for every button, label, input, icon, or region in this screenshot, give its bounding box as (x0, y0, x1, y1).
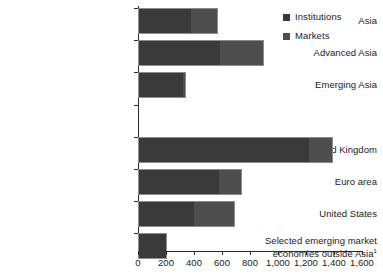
bar-segment-markets (220, 41, 263, 65)
bar-segment-institutions (139, 41, 220, 65)
bar-segment-markets (219, 170, 240, 194)
bar (138, 40, 264, 66)
legend-label-markets: Markets (295, 31, 329, 41)
y-axis-tick (134, 105, 138, 106)
x-axis-tick (250, 251, 251, 255)
category-label: Selected emerging market economies outsi… (251, 235, 383, 259)
x-axis-tick (138, 251, 139, 255)
legend-item-markets: Markets (283, 28, 342, 44)
bar (138, 201, 235, 227)
category-label: Euro area (251, 176, 383, 187)
bar-segment-markets (309, 138, 331, 162)
bar (138, 169, 242, 195)
bar-segment-institutions (139, 202, 194, 226)
bar-segment-markets (183, 73, 185, 97)
x-axis-tick-label: 1,000 (266, 257, 290, 268)
x-axis-tick (166, 251, 167, 255)
x-axis-tick (362, 251, 363, 255)
bar (138, 8, 218, 34)
bar-segment-institutions (139, 138, 309, 162)
bar-segment-markets (191, 9, 217, 33)
x-axis-tick-label: 0 (135, 257, 140, 268)
x-axis-tick-label: 400 (186, 257, 202, 268)
category-label: Advanced Asia (251, 47, 383, 58)
x-axis-tick-label: 600 (214, 257, 230, 268)
x-axis-tick (194, 251, 195, 255)
bar-segment-institutions (139, 170, 219, 194)
bar (138, 137, 333, 163)
bar-segment-institutions (139, 73, 183, 97)
bar-chart: Institutions Markets AsiaAdvanced AsiaEm… (0, 0, 383, 279)
x-axis-tick (278, 251, 279, 255)
bar-segment-institutions (139, 9, 191, 33)
legend-swatch-markets (283, 33, 290, 40)
x-axis-tick-label: 1,400 (322, 257, 346, 268)
category-label: Asia (251, 15, 383, 26)
x-axis-tick (222, 251, 223, 255)
x-axis-tick (334, 251, 335, 255)
bar-segment-markets (194, 202, 234, 226)
bar (138, 72, 186, 98)
x-axis-tick (306, 251, 307, 255)
category-label: Emerging Asia (251, 79, 383, 90)
category-label: United States (251, 208, 383, 219)
x-axis-tick-label: 200 (158, 257, 174, 268)
x-axis-tick-label: 1,200 (294, 257, 318, 268)
x-axis-tick-label: 800 (242, 257, 258, 268)
bar (138, 233, 167, 259)
x-axis-tick-label: 1,600 (350, 257, 374, 268)
bar-segment-institutions (139, 234, 166, 258)
